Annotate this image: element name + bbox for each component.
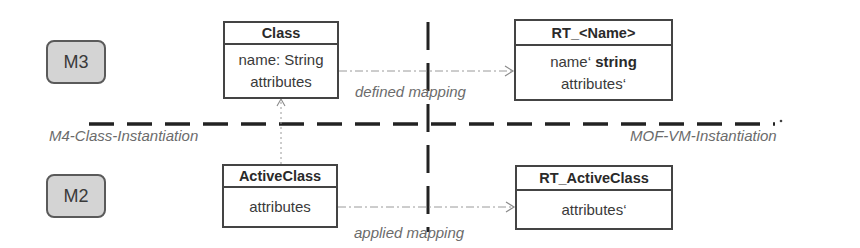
- rt-active-class-box: RT_ActiveClass attributes‘: [515, 165, 673, 230]
- m4-class-instantiation-label: M4-Class-Instantiation: [49, 127, 198, 144]
- rt-name-attr-prefix: name‘: [550, 53, 595, 70]
- rt-name-attr-attributes: attributes‘: [561, 73, 626, 95]
- active-class-attr-attributes: attributes: [249, 196, 311, 218]
- rt-active-class-box-title: RT_ActiveClass: [517, 167, 671, 191]
- class-attr-name: name: String: [238, 49, 323, 71]
- rt-name-box: RT_<Name> name‘ string attributes‘: [514, 19, 673, 101]
- level-badge-m2: M2: [46, 174, 106, 218]
- level-label-m2: M2: [63, 186, 88, 207]
- level-label-m3: M3: [63, 52, 88, 73]
- level-badge-m3: M3: [46, 40, 106, 84]
- rt-name-attr-type: string: [595, 53, 637, 70]
- rt-name-box-title: RT_<Name>: [516, 21, 671, 46]
- active-class-box-attributes: attributes: [224, 188, 336, 226]
- defined-mapping-label: defined mapping: [355, 83, 466, 100]
- rt-active-class-attr-attributes: attributes‘: [561, 199, 626, 221]
- class-attr-attributes: attributes: [250, 71, 312, 93]
- mof-vm-instantiation-label: MOF-VM-Instantiation: [630, 127, 777, 144]
- diagram-lines: [0, 0, 860, 248]
- applied-mapping-label: applied mapping: [354, 224, 464, 241]
- rt-name-attr-name: name‘ string: [550, 51, 637, 73]
- class-box-attributes: name: String attributes: [225, 45, 337, 97]
- rt-name-box-attributes: name‘ string attributes‘: [516, 46, 671, 99]
- active-class-box-title: ActiveClass: [224, 166, 336, 188]
- class-box: Class name: String attributes: [223, 21, 339, 99]
- separator-end-dot: [780, 120, 783, 123]
- rt-active-class-box-attributes: attributes‘: [517, 191, 671, 228]
- class-box-title: Class: [225, 23, 337, 45]
- active-class-box: ActiveClass attributes: [222, 164, 338, 228]
